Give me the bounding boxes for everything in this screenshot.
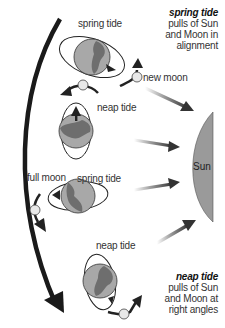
caption-neap-line3: right angles [128,304,218,315]
orbit-direction-arrow [25,19,64,313]
label-neap-tide-lower: neap tide [96,240,135,251]
caption-spring-line3: alignment [128,40,218,51]
caption-neap-tide: neap tide pulls of Sun and Moon at right… [128,271,218,315]
label-full-moon: full moon [27,172,66,183]
earth-spring-tide-top [54,28,130,85]
label-neap-tide-upper: neap tide [97,102,136,113]
caption-neap-line2: and Moon at [128,293,218,304]
caption-spring-tide-title: spring tide [128,7,218,18]
earth-neap-tide-upper [59,103,93,159]
earth-spring-tide-mid [47,179,110,213]
moon-path-arrow-new-moon [120,58,143,86]
sun-pull-arrow-3 [134,178,180,190]
sun-pull-arrow-1 [145,88,194,111]
label-spring-tide-mid: spring tide [77,173,121,184]
sun-pull-arrow-4 [157,220,196,243]
caption-spring-line2: and Moon in [128,29,218,40]
earth-neap-tide-lower [80,252,119,312]
label-sun: Sun [193,161,211,172]
caption-spring-tide: spring tide pulls of Sun and Moon in ali… [128,7,218,51]
sun-pull-arrow-2 [134,140,180,152]
caption-neap-line1: pulls of Sun [128,282,218,293]
caption-neap-tide-title: neap tide [128,271,218,282]
label-spring-tide-top: spring tide [78,18,122,29]
caption-spring-line1: pulls of Sun [128,18,218,29]
moon-path-arrow-1 [60,80,98,96]
label-new-moon: new moon [143,72,188,83]
